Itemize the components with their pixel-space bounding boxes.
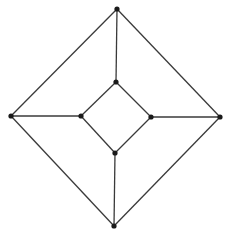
edge-inner-right-inner-bottom	[115, 117, 151, 153]
edges-group	[11, 9, 220, 226]
edge-outer-bottom-inner-bottom	[114, 153, 115, 226]
edge-inner-top-inner-right	[116, 82, 151, 117]
node-outer-left	[8, 113, 13, 118]
edge-inner-left-inner-top	[81, 82, 116, 116]
node-inner-top	[113, 79, 118, 84]
node-inner-bottom	[112, 150, 117, 155]
graph-diagram	[0, 0, 229, 235]
node-inner-right	[148, 114, 153, 119]
node-inner-left	[78, 113, 83, 118]
edge-outer-right-outer-bottom	[114, 117, 220, 226]
edge-outer-top-outer-right	[117, 9, 220, 117]
node-outer-bottom	[111, 223, 116, 228]
edge-outer-bottom-outer-left	[11, 116, 114, 226]
edge-inner-bottom-inner-left	[81, 116, 115, 153]
edge-outer-top-inner-top	[116, 9, 117, 82]
node-outer-right	[217, 114, 222, 119]
edge-outer-left-outer-top	[11, 9, 117, 116]
node-outer-top	[114, 6, 119, 11]
